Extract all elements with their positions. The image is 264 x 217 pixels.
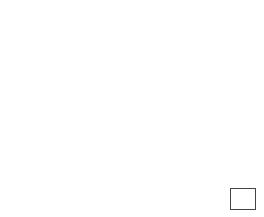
- backgammon-board: [0, 0, 264, 217]
- doubling-cube[interactable]: [230, 188, 256, 210]
